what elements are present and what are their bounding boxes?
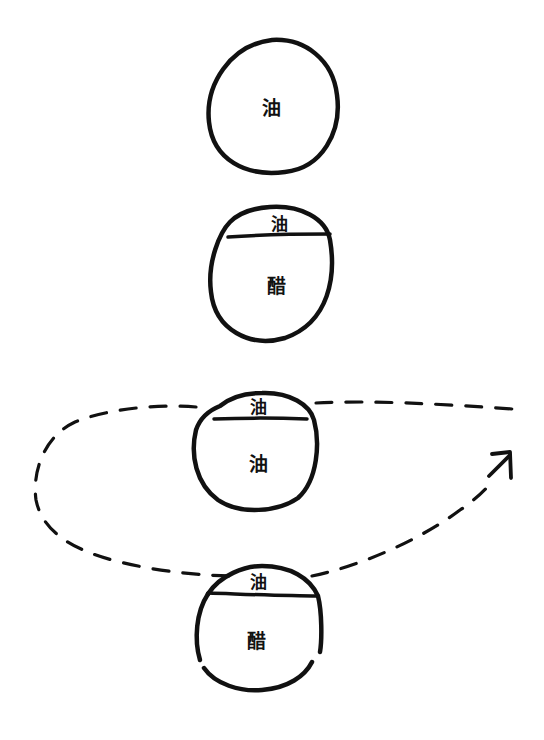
droplet-3-main-label: 油 (249, 455, 268, 474)
droplet-4-divider (208, 593, 318, 596)
arrow-up-right-icon (489, 452, 511, 478)
dashed-loop (35, 402, 512, 576)
droplet-3-divider (214, 418, 307, 419)
droplet-4-outline-left (197, 594, 208, 660)
droplet-2-main-label: 醋 (267, 277, 286, 296)
droplet-2-divider (228, 234, 330, 237)
dashed-loop-bottom-right (312, 484, 490, 576)
arrow-shaft (489, 455, 510, 476)
droplet-1-main-label: 油 (262, 99, 281, 118)
droplet-4-outline-bottom (204, 662, 312, 690)
dashed-loop-top-right (316, 402, 512, 409)
droplet-2-top-label: 油 (271, 216, 288, 233)
droplet-3-top-label: 油 (250, 399, 267, 416)
diagram-canvas: 油 油 醋 油 油 油 醋 (0, 0, 544, 740)
droplet-4-top-label: 油 (250, 574, 267, 591)
droplet-4-main-label: 醋 (247, 632, 266, 651)
